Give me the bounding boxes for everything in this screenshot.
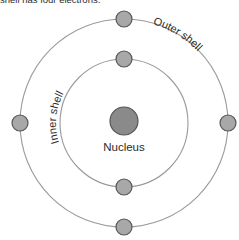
electron-outer-left — [12, 115, 28, 131]
electron-outer-right — [220, 115, 236, 131]
inner-shell-label: Inner shell — [46, 89, 65, 146]
electron-inner-bottom — [116, 179, 132, 195]
inner-shell-label-text: Inner shell — [46, 89, 65, 146]
atom-diagram-canvas: shell has four electrons. Nucleus Inner … — [0, 0, 239, 240]
outer-shell-label: Outer shell — [152, 15, 205, 53]
nucleus-label-text: Nucleus — [103, 141, 145, 153]
electron-outer-top — [116, 11, 132, 27]
electron-outer-bottom — [116, 219, 132, 235]
outer-shell-label-text: Outer shell — [152, 15, 205, 53]
electron-inner-top — [116, 51, 132, 67]
atom-shell-diagram: Nucleus Inner shell Outer shell — [0, 0, 239, 240]
nucleus-label: Nucleus — [103, 141, 145, 153]
nucleus — [110, 107, 138, 135]
